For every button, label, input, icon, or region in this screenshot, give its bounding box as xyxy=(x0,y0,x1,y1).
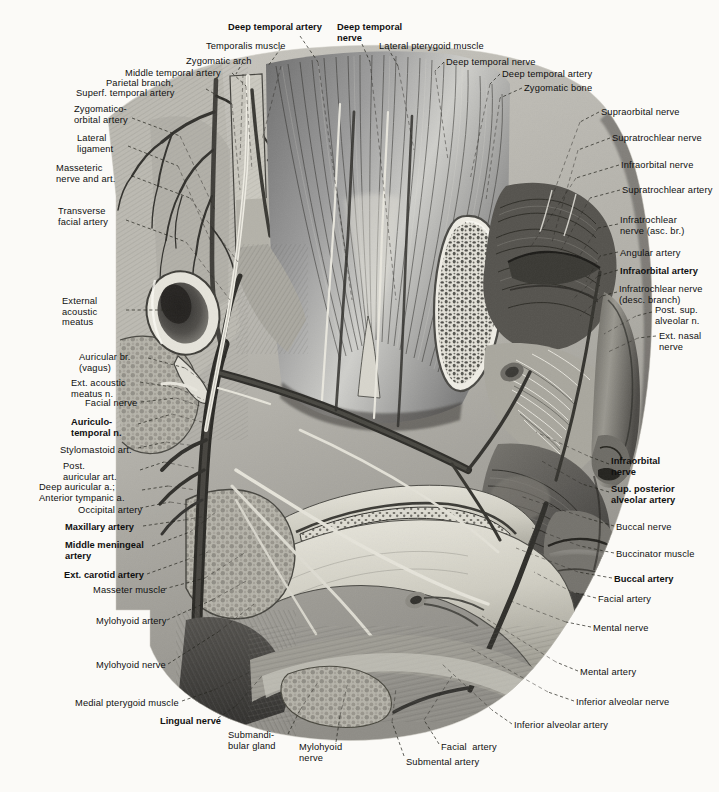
label-deep-temporal-artery-top: Deep temporal artery xyxy=(228,22,322,33)
label-infratrochlear-nerve-asc: Infratrochlear nerve (asc. br.) xyxy=(620,215,684,236)
label-post-auricular-art: Post. auricular art. xyxy=(63,461,117,482)
label-inferior-alveolar-nerve: Inferior alveolar nerve xyxy=(576,697,669,708)
label-supratrochlear-nerve: Supratrochlear nerve xyxy=(612,133,702,144)
label-post-sup-alveolar-n: Post. sup. alveolar n. xyxy=(655,305,700,326)
label-deep-auricular-a: Deep auricular a.; Anterior tympanic a. xyxy=(39,482,125,503)
label-medial-pterygoid-muscle: Medial pterygoid muscle xyxy=(75,698,179,709)
label-deep-temporal-nerve-top: Deep temporal nerve xyxy=(337,22,402,43)
label-buccinator-muscle: Buccinator muscle xyxy=(616,549,695,560)
label-mental-nerve: Mental nerve xyxy=(593,623,649,634)
label-facial-nerve: Facial nerve xyxy=(85,398,137,409)
label-occipital-artery: Occipital artery xyxy=(78,505,142,516)
label-mental-artery: Mental artery xyxy=(580,667,636,678)
label-deep-temporal-artery-right: Deep temporal artery xyxy=(502,69,592,80)
label-infraorbital-nerve-lower: Infraorbital nerve xyxy=(611,456,660,477)
label-mylohyoid-nerve: Mylohyoid nerve xyxy=(96,660,166,671)
label-supraorbital-nerve: Supraorbital nerve xyxy=(601,107,680,118)
label-sup-posterior-alveolar-artery: Sup. posterior alveolar artery xyxy=(611,484,675,505)
label-auriculo-temporal-n: Auriculo- temporal n. xyxy=(71,417,122,438)
label-inferior-alveolar-artery: Inferior alveolar artery xyxy=(514,720,608,731)
label-lingual-nerve: Lingual nerve xyxy=(160,716,221,727)
label-deep-temporal-nerve-right: Deep temporal nerve xyxy=(446,57,536,68)
label-temporalis-muscle: Temporalis muscle xyxy=(206,41,286,52)
label-supratrochlear-artery: Supratrochlear artery xyxy=(622,185,712,196)
label-masseter-muscle: Masseter muscle xyxy=(93,585,166,596)
label-maxillary-artery: Maxillary artery xyxy=(65,522,134,533)
label-ext-carotid-artery: Ext. carotid artery xyxy=(64,570,144,581)
label-buccal-nerve: Buccal nerve xyxy=(616,522,672,533)
label-infraorbital-nerve-right: Infraorbital nerve xyxy=(621,160,693,171)
label-superf-temporal-artery: Superf. temporal artery xyxy=(76,88,175,99)
label-mylohyoid-artery: Mylohyoid artery xyxy=(96,616,167,627)
label-angular-artery: Angular artery xyxy=(620,248,681,259)
label-submandibular-gland: Submandi- bular gland xyxy=(228,730,276,751)
label-lateral-ligament: Lateral ligament xyxy=(77,133,113,154)
label-buccal-artery: Buccal artery xyxy=(614,574,674,585)
label-ext-nasal-nerve: Ext. nasal nerve xyxy=(659,331,701,352)
label-infraorbital-artery: Infraorbital artery xyxy=(620,266,698,277)
label-ext-acoustic-meatus-n: Ext. acoustic meatus n. xyxy=(71,378,126,399)
label-zygomatic-bone: Zygomatic bone xyxy=(524,83,592,94)
label-middle-meningeal-artery: Middle meningeal artery xyxy=(65,540,144,561)
label-middle-temporal-artery: Middle temporal artery xyxy=(125,68,221,79)
label-infratrochlear-nerve-desc: Infratrochlear nerve (desc. branch) xyxy=(619,284,703,305)
label-facial-artery: Facial artery xyxy=(598,594,651,605)
label-masseteric-nerve-and-art: Masseteric nerve and art. xyxy=(56,163,115,184)
label-zygomatic-arch: Zygomatic arch xyxy=(186,56,252,67)
label-transverse-facial-artery: Transverse facial artery xyxy=(58,206,108,227)
label-facial-artery-bottom: Facial artery xyxy=(441,742,497,753)
label-submental-artery: Submental artery xyxy=(406,757,479,768)
label-mylohyoid-nerve-bottom: Mylohyoid nerve xyxy=(299,742,342,763)
label-parietal-branch: Parietal branch, xyxy=(106,78,174,89)
label-stylomastoid-art: Stylomastoid art. xyxy=(60,445,132,456)
label-zygomatico-orbital-artery: Zygomatico- orbital artery xyxy=(74,104,128,125)
label-external-acoustic-meatus: External acoustic meatus xyxy=(62,296,97,328)
label-auricular-br-vagus: Auricular br. (vagus) xyxy=(79,352,131,373)
label-lateral-pterygoid-muscle: Lateral pterygoid muscle xyxy=(379,41,484,52)
